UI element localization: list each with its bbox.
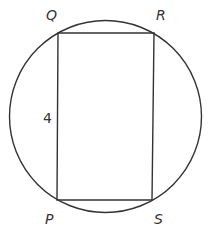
rectangle-pqrs [57, 33, 154, 200]
side-length-label-pq: 4 [43, 110, 52, 126]
vertex-label-r: R [156, 7, 166, 23]
vertex-label-q: Q [46, 7, 57, 23]
diagram-canvas: Q R P S 4 [0, 0, 221, 236]
vertex-label-p: P [45, 211, 54, 227]
vertex-label-s: S [154, 211, 163, 227]
circumscribed-circle [10, 21, 202, 213]
